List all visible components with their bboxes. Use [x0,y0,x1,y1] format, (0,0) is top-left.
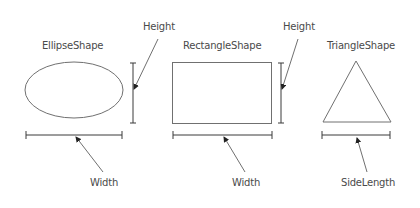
rectangle-width-dimension [173,131,272,139]
ellipse-width-label: Width [90,177,118,189]
rectangle-height-dimension [278,63,284,123]
rectangle-height-label: Height [283,21,315,33]
ellipse-width-dimension [26,131,122,139]
rectangle-shape-title: RectangleShape [183,40,261,52]
rectangle-shape [173,63,272,124]
triangle-sidelength-dimension [322,131,390,139]
triangle-shape-title: TriangleShape [327,40,395,52]
ellipse-shape-title: EllipseShape [42,40,103,52]
triangle-sidelength-arrow [357,138,367,172]
rectangle-width-label: Width [232,177,260,189]
ellipse-shape [25,62,123,118]
ellipse-width-arrow [76,137,103,172]
triangle-shape-group [322,61,391,172]
ellipse-height-dimension [130,63,136,123]
triangle-sidelength-label: SideLength [341,177,395,189]
shape-dimensions-diagram: EllipseShape Height Width RectangleShape… [0,0,420,208]
triangle-shape [323,61,391,122]
rectangle-height-arrow [282,39,298,89]
rectangle-width-arrow [224,137,245,172]
ellipse-height-label: Height [143,21,175,33]
rectangle-shape-group [173,39,299,172]
ellipse-shape-group [25,39,158,172]
ellipse-height-arrow [134,39,158,89]
